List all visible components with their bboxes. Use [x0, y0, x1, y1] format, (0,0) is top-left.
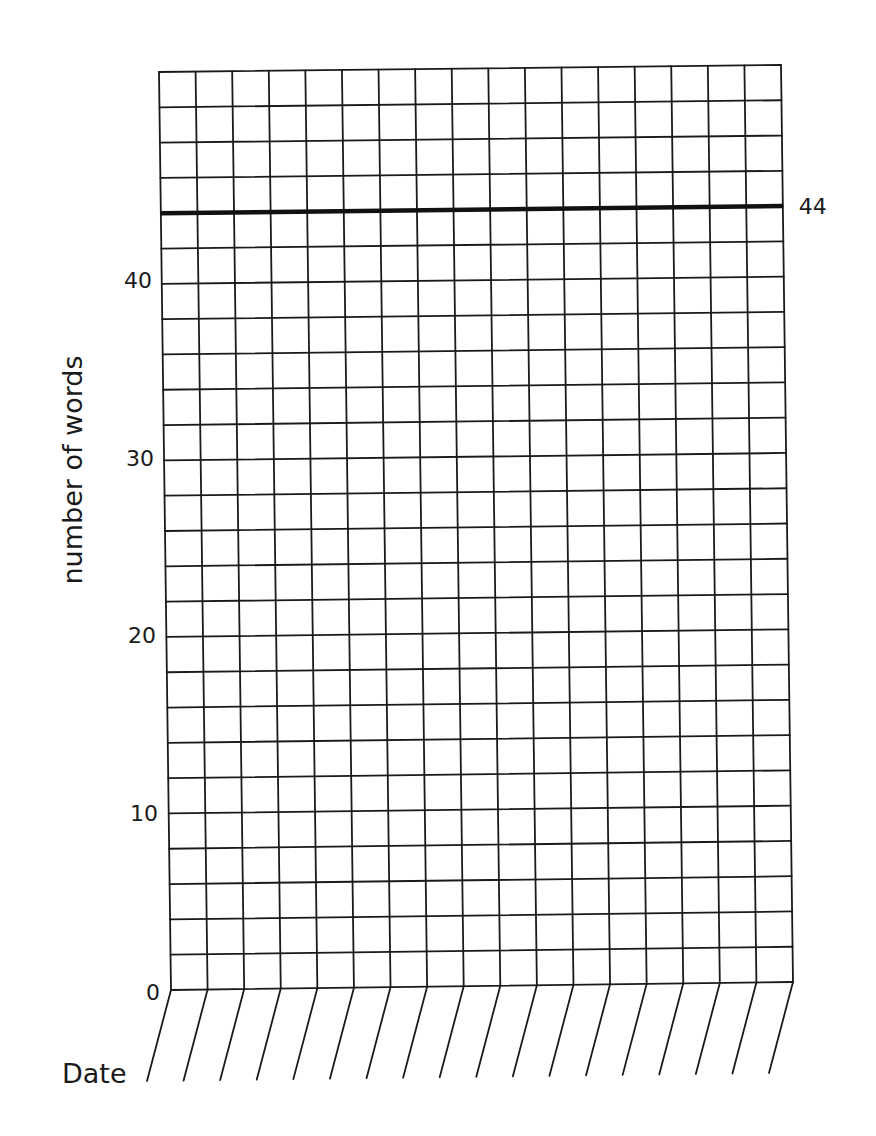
date-slot-line	[293, 988, 317, 1079]
date-slot-line	[623, 984, 647, 1075]
grid-row-line	[162, 277, 784, 284]
date-slot-line	[732, 982, 756, 1073]
grid-row-line	[162, 312, 784, 319]
grid-row-line	[169, 806, 791, 814]
x-axis-title: Date	[62, 1058, 127, 1089]
grid-row-line	[164, 418, 786, 425]
date-slot-line	[513, 985, 537, 1076]
date-slot-line	[476, 986, 500, 1077]
grid-row-line	[163, 347, 785, 354]
date-slot-line	[769, 982, 793, 1073]
date-slot-line	[257, 989, 281, 1080]
y-tick-10: 10	[130, 801, 158, 826]
date-slot-line	[549, 985, 573, 1076]
date-slot-line	[367, 987, 391, 1078]
y-tick-30: 30	[126, 446, 154, 471]
y-tick-40: 40	[124, 268, 152, 293]
grid-row-line	[165, 524, 787, 532]
goal-line	[161, 206, 783, 213]
date-slot-line	[330, 988, 354, 1079]
grid-row-line	[165, 559, 787, 567]
grid-row-line	[163, 382, 785, 389]
grid-row-line	[166, 629, 788, 637]
date-slot-line	[184, 990, 208, 1081]
grid-row-line	[160, 136, 782, 143]
grid-row-line	[171, 947, 793, 955]
grid-row-line	[167, 700, 789, 708]
grid-row-line	[160, 171, 782, 178]
grid-row-line	[171, 982, 793, 990]
grid-row-line	[167, 665, 789, 673]
grid-row-line	[159, 65, 781, 72]
goal-value-label: 44	[799, 194, 827, 219]
date-slot-line	[220, 989, 244, 1080]
date-slot-line	[659, 983, 683, 1074]
y-axis-title: number of words	[57, 356, 88, 585]
date-slot-line	[696, 983, 720, 1074]
date-entry-slots	[147, 982, 793, 1081]
progress-chart: 44 40 30 20 10 0 number of words Date	[0, 0, 876, 1136]
date-slot-line	[586, 984, 610, 1075]
date-slot-line	[440, 986, 464, 1077]
grid-row-line	[168, 735, 790, 743]
grid-row-line	[164, 453, 786, 460]
grid-row-line	[170, 876, 792, 884]
grid-row-line	[168, 770, 790, 778]
y-tick-0: 0	[146, 980, 160, 1005]
chart-grid	[159, 65, 793, 990]
grid-row-line	[165, 488, 787, 495]
grid-row-line	[169, 841, 791, 849]
y-tick-20: 20	[128, 623, 156, 648]
grid-row-line	[166, 594, 788, 602]
grid-row-line	[161, 241, 783, 248]
date-slot-line	[403, 987, 427, 1078]
grid-row-line	[159, 100, 781, 107]
grid-row-line	[170, 911, 792, 919]
